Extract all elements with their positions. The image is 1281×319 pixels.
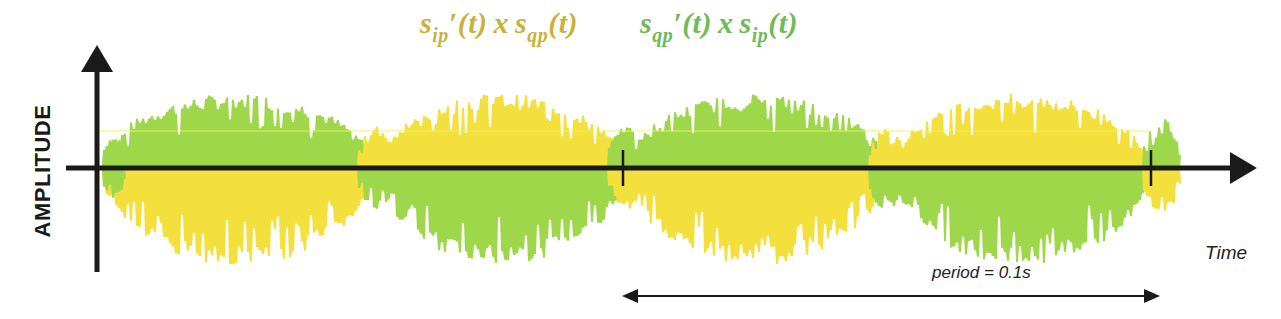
formula-operator: x	[494, 6, 510, 39]
waveform-signals	[100, 94, 1181, 265]
period-arrow-left-icon	[622, 289, 638, 303]
signal-lobe	[1140, 119, 1181, 168]
signal-lobe	[866, 129, 907, 168]
signal-lobe	[100, 95, 372, 168]
formula-prime-arg: ′(t)	[449, 6, 488, 39]
signal-lobe	[626, 168, 886, 264]
signal-lobe	[893, 168, 1150, 263]
formula-subscript: ip	[432, 24, 449, 46]
formula-prime-arg: ′(t)	[673, 6, 712, 39]
x-axis-arrow-icon	[1230, 152, 1257, 184]
formula-subscript: qp	[527, 24, 548, 46]
signal-lobe	[100, 168, 372, 264]
formula-symbol: s	[515, 6, 527, 39]
period-annotation: period = 0.1s	[932, 263, 1031, 283]
formula-symbol: s	[739, 6, 751, 39]
y-axis-arrow-icon	[81, 45, 113, 72]
x-axis-label: Time	[1205, 242, 1247, 264]
signal-lobe	[1140, 168, 1181, 211]
signal-lobe	[378, 168, 623, 263]
formula-symbol: s	[640, 6, 652, 39]
formula-arg: (t)	[548, 6, 578, 39]
formula-symbol: s	[420, 6, 432, 39]
legend-green-formula: sqp′(t)xsip(t)	[640, 6, 798, 47]
y-axis-label: AMPLITUDE	[8, 0, 78, 319]
legend-yellow-formula: sip′(t)xsqp(t)	[420, 6, 578, 47]
y-axis-label-text: AMPLITUDE	[30, 105, 56, 238]
formula-operator: x	[718, 6, 734, 39]
formula-subscript: qp	[652, 24, 673, 46]
waveform-diagram	[0, 0, 1281, 319]
formula-subscript: ip	[752, 24, 769, 46]
formula-arg: (t)	[768, 6, 798, 39]
period-arrow-right-icon	[1144, 289, 1160, 303]
